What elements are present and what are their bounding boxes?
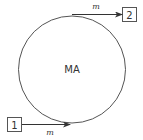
outflow-mass-label: m: [92, 2, 100, 11]
center-label: MA: [64, 64, 80, 75]
node-2: 2: [123, 8, 137, 22]
node-1: 1: [8, 118, 22, 132]
node-1-label: 1: [11, 120, 17, 131]
node-2-label: 2: [126, 10, 132, 21]
diagram-canvas: MA 1 m 2 m: [0, 0, 143, 140]
inflow-mass-label: m: [46, 128, 54, 137]
